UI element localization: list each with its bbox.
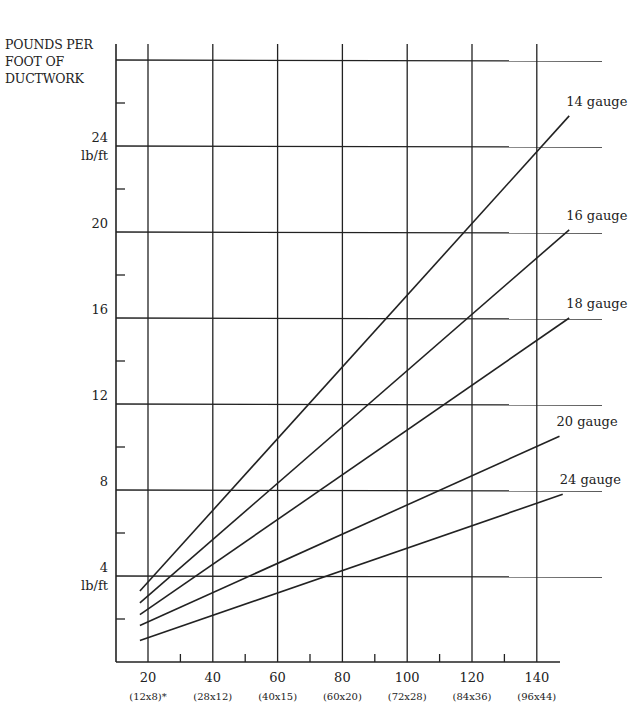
- y-tick-label: 12: [68, 388, 108, 404]
- y-tick-unit: lb/ft: [68, 578, 108, 594]
- gridline-h: [116, 232, 602, 233]
- x-tick-sublabel: (96x44): [502, 691, 572, 702]
- x-tick-sublabel: (40x15): [243, 691, 313, 702]
- x-tick-label: 20: [118, 670, 178, 685]
- y-tick-label: 20: [68, 216, 108, 232]
- y-axis-title-line-1: POUNDS PER: [5, 36, 93, 53]
- series-line: [140, 494, 563, 640]
- y-tick-label: 4: [68, 560, 108, 576]
- y-tick-label: 16: [68, 302, 108, 318]
- series-label: 16 gauge: [566, 208, 627, 223]
- y-axis-title-line-3: DUCTWORK: [5, 70, 93, 87]
- x-tick-label: 40: [183, 670, 243, 685]
- x-tick-label: 60: [248, 670, 308, 685]
- x-tick-sublabel: (12x8)*: [113, 691, 183, 702]
- y-axis-title-line-2: FOOT OF: [5, 53, 93, 70]
- x-tick-sublabel: (72x28): [372, 691, 442, 702]
- series-label: 20 gauge: [556, 414, 617, 429]
- x-tick-sublabel: (60x20): [307, 691, 377, 702]
- x-tick-label: 80: [312, 670, 372, 685]
- series-line: [140, 230, 569, 603]
- x-tick-sublabel: (28x12): [178, 691, 248, 702]
- series-line: [140, 436, 560, 625]
- y-axis-title: POUNDS PER FOOT OF DUCTWORK: [5, 36, 93, 87]
- x-tick-label: 120: [442, 670, 502, 685]
- series-label: 18 gauge: [566, 296, 627, 311]
- gridline-h: [116, 404, 602, 405]
- series-line: [140, 116, 569, 591]
- x-tick-label: 100: [377, 670, 437, 685]
- series-lines: [140, 116, 569, 641]
- series-label: 24 gauge: [560, 472, 621, 487]
- x-tick-sublabel: (84x36): [437, 691, 507, 702]
- series-label: 14 gauge: [566, 94, 627, 109]
- gridline-h: [116, 60, 602, 61]
- gridline-h: [116, 318, 602, 319]
- y-tick-label: 8: [68, 474, 108, 490]
- gridline-h: [116, 490, 602, 491]
- chart-canvas: [0, 0, 631, 721]
- y-tick-unit: lb/ft: [68, 148, 108, 164]
- grid: [116, 44, 602, 662]
- gridline-h: [116, 146, 602, 147]
- series-line: [140, 318, 569, 615]
- y-tick-label: 24: [68, 130, 108, 146]
- gridline-h: [116, 576, 602, 577]
- x-tick-label: 140: [507, 670, 567, 685]
